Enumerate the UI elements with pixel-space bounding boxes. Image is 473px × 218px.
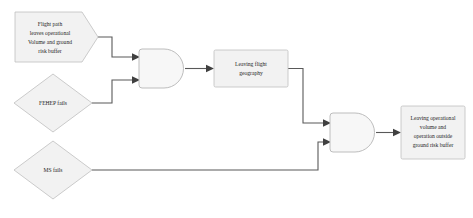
node-label-line: FEHEP fails xyxy=(39,100,67,106)
pentagon-right-shape xyxy=(15,12,98,62)
rectangle-shape xyxy=(214,50,288,87)
node-label-line: Leaving operational xyxy=(411,115,456,121)
node-flight-path-leaves-operational-volume[interactable]: Flight path leaves operational Volume an… xyxy=(15,12,98,62)
fault-tree-diagram: Flight path leaves operational Volume an… xyxy=(0,0,473,218)
node-label-line: operation outside xyxy=(414,133,453,139)
edge-fehep-to-gate1 xyxy=(92,80,132,103)
node-leaving-flight-geography[interactable]: Leaving flight geography xyxy=(214,50,288,87)
node-label-line: ground risk buffer xyxy=(413,142,454,148)
edge-flightpath-to-gate1 xyxy=(98,37,132,57)
node-ms-fails[interactable]: MS fails xyxy=(14,141,92,199)
node-label-line: geography xyxy=(239,70,263,76)
node-label-line: Flight path xyxy=(38,21,63,27)
node-label-line: volume and xyxy=(420,124,446,130)
node-leaving-operational-volume-outside-ground-risk-buffer[interactable]: Leaving operational volume and operation… xyxy=(401,106,465,159)
arrowhead-gate2-outcome xyxy=(393,129,401,136)
node-label-line: leaves operational xyxy=(30,30,71,36)
node-label-line: Leaving flight xyxy=(235,61,267,67)
node-label-line: Volume and ground xyxy=(28,39,72,45)
node-and-gate-1[interactable] xyxy=(139,49,184,88)
diagram-canvas: Flight path leaves operational Volume an… xyxy=(0,0,473,218)
node-label-line: MS fails xyxy=(43,167,62,173)
edge-flightgeography-to-gate2 xyxy=(288,69,323,124)
and-gate-shape xyxy=(330,113,375,152)
node-fehep-fails[interactable]: FEHEP fails xyxy=(14,74,92,132)
arrowhead-gate1-flightgeography xyxy=(206,65,214,72)
node-label-line: risk buffer xyxy=(38,48,61,54)
node-and-gate-2[interactable] xyxy=(330,113,375,152)
and-gate-shape xyxy=(139,49,184,88)
edge-msfails-to-gate2 xyxy=(92,142,323,170)
